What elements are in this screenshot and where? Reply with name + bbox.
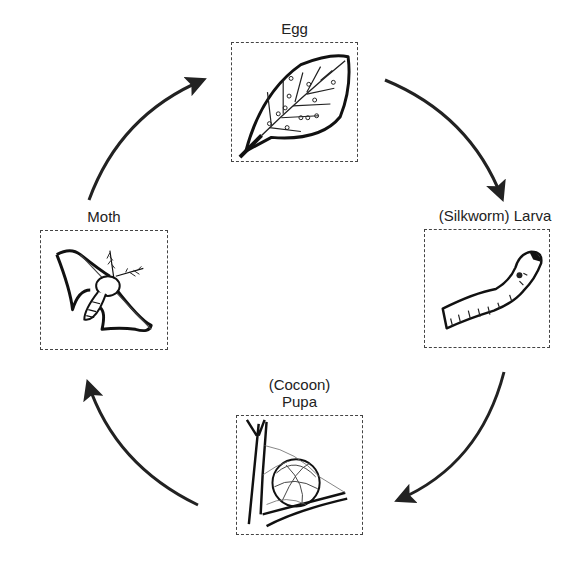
arrow-egg-to-larva — [385, 80, 502, 198]
arrow-larva-to-pupa — [398, 372, 504, 500]
cocoon-on-twig-icon — [237, 416, 362, 534]
pupa-label-line2: Pupa — [236, 393, 363, 410]
leaf-with-eggs-icon — [232, 43, 357, 161]
arrow-moth-to-egg — [89, 80, 203, 200]
moth-label: Moth — [40, 208, 168, 225]
pupa-stage-box — [236, 415, 363, 535]
egg-label: Egg — [231, 20, 358, 37]
larva-stage-box — [424, 229, 550, 348]
pupa-label-line1: (Cocoon) — [236, 376, 363, 393]
egg-stage-box — [231, 42, 358, 162]
larva-label: (Silkworm) Larva — [415, 207, 575, 224]
silkworm-icon — [425, 230, 549, 347]
silk-moth-icon — [41, 231, 167, 349]
arrow-pupa-to-moth — [88, 383, 198, 505]
moth-stage-box — [40, 230, 168, 350]
